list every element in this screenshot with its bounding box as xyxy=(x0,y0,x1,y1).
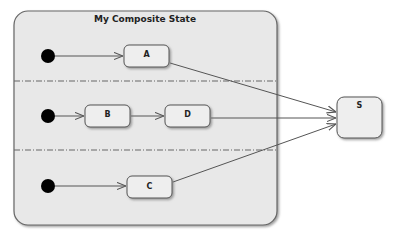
initial-state-icon xyxy=(41,109,55,123)
state-diagram: My Composite State A B D C S xyxy=(0,0,397,236)
initial-state-icon xyxy=(41,49,55,63)
state-c[interactable]: C xyxy=(127,176,172,198)
svg-text:S: S xyxy=(357,101,363,110)
state-b[interactable]: B xyxy=(85,105,130,127)
svg-text:A: A xyxy=(143,50,150,59)
state-d[interactable]: D xyxy=(165,105,210,127)
svg-text:B: B xyxy=(104,110,110,119)
state-a[interactable]: A xyxy=(124,45,169,67)
composite-title: My Composite State xyxy=(94,14,196,24)
initial-state-icon xyxy=(41,179,55,193)
svg-text:C: C xyxy=(147,182,153,191)
state-s[interactable]: S xyxy=(337,97,382,138)
svg-text:D: D xyxy=(184,110,191,119)
